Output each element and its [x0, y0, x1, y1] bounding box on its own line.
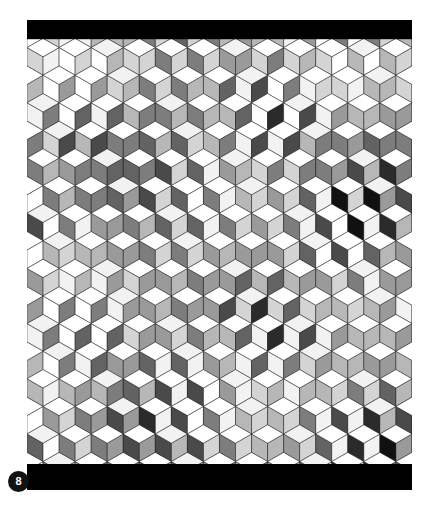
plate-number-badge: 8: [8, 471, 29, 492]
plate-number-label: 8: [15, 476, 21, 487]
cube-tessellation-canvas: [27, 20, 412, 490]
top-black-band: [27, 20, 412, 39]
cube-grid: [27, 20, 412, 490]
artwork-page: 8: [0, 0, 434, 523]
isometric-cube-artwork: [27, 20, 412, 490]
bottom-black-band: [27, 464, 412, 490]
